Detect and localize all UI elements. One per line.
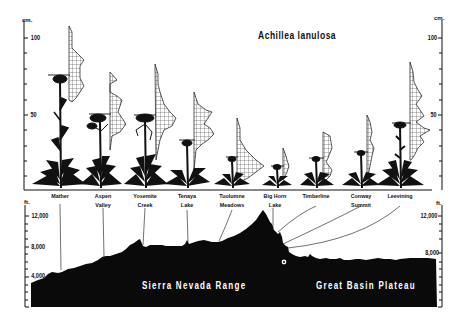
plant-tenaya-lake (164, 140, 210, 188)
bottom-right-axis (438, 205, 442, 307)
station-label-yosemite-creek: Yosemite Creek (125, 192, 165, 210)
figure-canvas (0, 0, 466, 325)
station-label-aspen-valley: Aspen Valley (83, 192, 123, 210)
bottom-right-unit: ft. (436, 200, 442, 206)
station-label-timberline: Timberline (296, 192, 336, 201)
bottom-right-tick-12000: 12,000 (420, 212, 437, 219)
station-label-tenaya-lake: Tenaya Lake (167, 192, 207, 210)
top-right-tick-50: 50 (431, 111, 437, 118)
region-label-great-basin: Great Basin Plateau (316, 280, 416, 291)
top-left-unit: cm. (22, 17, 32, 23)
bottom-left-tick-8000: 8,000 (31, 243, 45, 250)
figure-title: Achillea lanulosa (258, 30, 336, 41)
top-left-axis (24, 20, 432, 190)
top-left-tick-50: 50 (31, 111, 37, 118)
bottom-left-tick-4000: 4,000 (31, 272, 45, 279)
region-label-sierra-nevada: Sierra Nevada Range (142, 280, 246, 291)
station-label-leevining: Leevining (380, 192, 420, 201)
plant-silhouettes (32, 75, 424, 188)
top-right-unit: cm. (434, 15, 444, 21)
bottom-left-tick-12000: 12,000 (31, 212, 48, 219)
histograms (69, 26, 430, 182)
top-right-tick-100: 100 (428, 34, 437, 41)
station-label-tuolumne-meadows: Tuolumne Meadows (212, 192, 252, 210)
bottom-left-unit: ft. (24, 199, 30, 205)
station-label-mather: Mather (40, 192, 80, 201)
station-label-conway-summit: Conway Summit (341, 192, 381, 210)
top-right-axis (438, 20, 442, 190)
bottom-right-tick-8000: 8,000 (425, 249, 439, 256)
bottom-left-axis (25, 205, 29, 307)
elevation-profile (31, 210, 437, 307)
top-left-tick-100: 100 (31, 34, 40, 41)
station-label-big-horn-lake: Big Horn Lake (255, 192, 295, 210)
plant-conway-summit (342, 151, 380, 189)
